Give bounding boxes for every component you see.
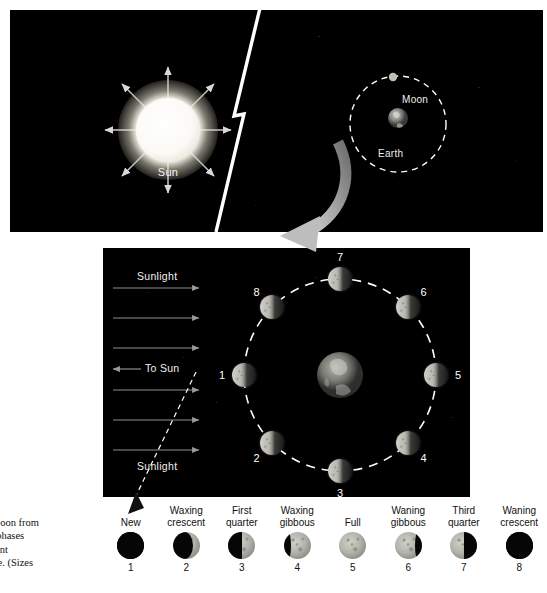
phase-index-7: 7 [438,562,490,573]
moon-position-number-1: 1 [219,369,225,381]
phase-disc-4 [284,532,311,559]
phase-name-8: Waningcrescent [493,504,545,528]
phase-cell-3[interactable]: Firstquarter3 [216,504,268,573]
phase-disc-2 [173,532,200,559]
zoom-in-curved-arrow-icon [250,140,390,270]
orbit-group: 12345678 [218,258,463,493]
caption-line-4: d surface. (Sizes [0,556,104,569]
moon-position-number-6: 6 [420,286,426,298]
phase-disc-shadow [228,532,242,559]
moon-surface-texture [232,363,256,387]
phase-disc-3 [228,532,255,559]
moon-position-number-5: 5 [455,369,461,381]
moon-position-number-4: 4 [420,452,426,464]
moon-surface-texture [260,295,284,319]
moon-label: Moon [402,94,428,105]
moon-surface-texture [424,363,448,387]
moon-position-6 [396,295,420,319]
phase-name-4: Waxinggibbous [271,504,323,528]
phase-disc-5 [339,532,366,559]
moon-surface-texture [396,295,420,319]
caption-line-3: g different [0,543,104,556]
phase-name-5: Full [327,504,379,528]
moon-surface-texture [328,267,352,291]
phase-index-1: 1 [105,562,157,573]
phase-disc-shadow [173,532,193,559]
phase-index-5: 5 [327,562,379,573]
phase-disc-6 [395,532,422,559]
phase-name-6: Waninggibbous [382,504,434,528]
phase-disc-shadow [506,532,533,559]
phase-disc-shadow [415,532,422,559]
new-phase-pointer-arrow-icon [112,368,202,528]
phase-index-4: 4 [271,562,323,573]
phase-index-6: 6 [382,562,434,573]
phase-disc-7 [450,532,477,559]
moon-position-3 [328,459,352,483]
phase-disc-shadow [464,532,478,559]
phase-index-2: 2 [160,562,212,573]
phase-disc-shadow [284,532,291,559]
phase-index-3: 3 [216,562,268,573]
moon-position-1 [232,363,256,387]
moon-position-8 [260,295,284,319]
phase-disc-shadow [117,532,144,559]
moon-position-7 [328,267,352,291]
phase-cell-5[interactable]: Full5 [327,504,379,573]
moon-position-2 [260,431,284,455]
phase-disc-texture [339,532,366,559]
caption-line-1: of the Moon from [0,516,104,529]
phase-name-3: Firstquarter [216,504,268,528]
figure-caption: of the Moon fromin. The phasesg differen… [0,516,104,570]
phase-cell-7[interactable]: Thirdquarter7 [438,504,490,573]
moon-position-4 [396,431,420,455]
moon-position-number-8: 8 [253,286,259,298]
moon-position-number-2: 2 [253,452,259,464]
moon-position-number-3: 3 [337,487,343,497]
moon-surface-texture [396,431,420,455]
phase-name-7: Thirdquarter [438,504,490,528]
moon-surface-texture [260,431,284,455]
phase-cell-8[interactable]: Waningcrescent8 [493,504,545,573]
phase-cell-6[interactable]: Waninggibbous6 [382,504,434,573]
moon-position-5 [424,363,448,387]
caption-line-2: in. The phases [0,529,104,542]
phase-cell-4[interactable]: Waxinggibbous4 [271,504,323,573]
phase-disc-1 [117,532,144,559]
phase-disc-8 [506,532,533,559]
phase-index-8: 8 [493,562,545,573]
sun-disc [136,98,200,162]
moon-surface-texture [328,459,352,483]
